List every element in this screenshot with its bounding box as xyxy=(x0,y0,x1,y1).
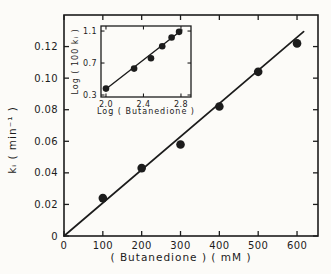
main-data-point xyxy=(176,140,185,149)
main-x-tick-label: 200 xyxy=(132,240,152,251)
inset-data-point xyxy=(159,43,166,50)
main-x-tick-label: 500 xyxy=(248,240,268,251)
main-x-tick-label: 300 xyxy=(170,240,190,251)
inset-y-tick-label: 0.7 xyxy=(83,59,97,68)
inset-plot: 2.02.42.80.30.71.1Log ( Butanedione )Log… xyxy=(71,26,195,116)
main-x-tick-label: 100 xyxy=(93,240,113,251)
main-y-tick-label: 0.12 xyxy=(34,41,58,52)
main-x-tick-label: 0 xyxy=(61,240,68,251)
inset-y-tick-label: 1.1 xyxy=(83,27,97,36)
main-y-tick-label: 0.06 xyxy=(34,136,58,147)
inset-plot-background xyxy=(101,26,191,97)
main-y-tick-label: 0 xyxy=(51,231,58,242)
inset-x-axis-title: Log ( Butanedione ) xyxy=(97,107,195,116)
main-x-tick-label: 400 xyxy=(209,240,229,251)
main-y-axis-title: kᵢ ( min⁻¹ ) xyxy=(6,106,18,174)
inset-y-axis-title: Log ( 100 kᵢ ) xyxy=(71,28,80,94)
kinetics-figure: 010020030040050060000.020.040.060.080.10… xyxy=(0,0,331,274)
main-x-tick-label: 600 xyxy=(287,240,307,251)
inset-data-point xyxy=(103,85,110,92)
main-y-tick-label: 0.10 xyxy=(34,73,58,84)
main-x-axis-title: ( Butanedione ) ( mM ) xyxy=(110,251,251,263)
main-y-tick-label: 0.04 xyxy=(34,167,58,178)
inset-data-point xyxy=(176,29,183,36)
inset-data-point xyxy=(168,34,175,41)
main-y-tick-label: 0.08 xyxy=(34,104,58,115)
main-data-point xyxy=(254,68,263,77)
main-data-point xyxy=(293,39,302,48)
main-y-tick-label: 0.02 xyxy=(34,199,58,210)
inset-y-tick-label: 0.3 xyxy=(83,91,97,100)
main-data-point xyxy=(99,194,108,203)
main-data-point xyxy=(215,102,224,111)
main-data-point xyxy=(137,164,146,173)
inset-data-point xyxy=(148,55,155,62)
inset-data-point xyxy=(131,65,138,72)
chart-canvas: 010020030040050060000.020.040.060.080.10… xyxy=(0,0,331,274)
